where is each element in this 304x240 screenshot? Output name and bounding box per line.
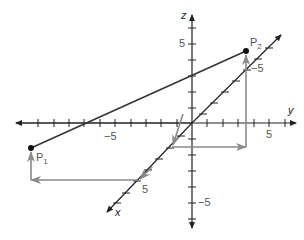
y-tick-label-5: 5 [266, 128, 272, 140]
x-tick-label-5: 5 [142, 183, 148, 195]
point-p1 [28, 145, 34, 151]
p1-guide-path [31, 152, 152, 180]
segment-p1-p2 [31, 51, 246, 148]
z-tick-label-5: 5 [179, 37, 185, 49]
point-p1-label: P1 [36, 151, 48, 166]
point-p1-subscript: 1 [43, 157, 47, 166]
point-p2-label: P2 [250, 36, 262, 51]
p2-guide-path [172, 55, 246, 147]
x-axis-label: x [115, 206, 121, 218]
x-tick-label-neg5: −5 [251, 62, 264, 74]
z-axis [188, 15, 196, 228]
y-axis-label: y [288, 104, 294, 116]
y-tick-label-neg5: −5 [104, 130, 117, 142]
point-p2 [243, 48, 249, 54]
y-axis [16, 119, 296, 127]
z-axis-label: z [181, 9, 187, 21]
point-p2-subscript: 2 [257, 42, 261, 51]
z-tick-label-neg5: −5 [198, 196, 211, 208]
